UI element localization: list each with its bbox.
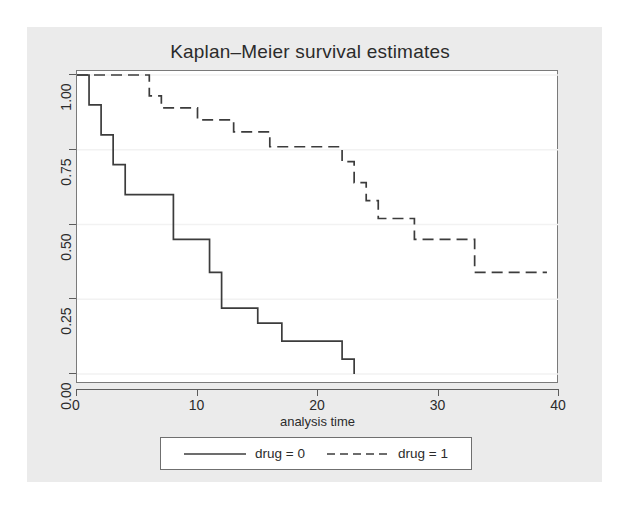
legend-label: drug = 1 [398,446,448,461]
x-tick-mark [76,389,77,396]
legend-key-dashed [327,448,389,460]
x-tick-label: 40 [538,397,578,413]
plot-area [76,70,558,383]
chart-title: Kaplan–Meier survival estimates [60,41,560,63]
series-line-1 [77,75,547,272]
legend-key-solid [184,448,246,460]
y-tick-label: 0.75 [57,149,75,195]
y-axis: 0.000.250.500.751.00 [30,70,76,383]
gridlines-group [77,75,559,374]
legend-entry-0[interactable]: drug = 0 [184,446,305,461]
y-tick-label: 0.50 [57,224,75,270]
x-tick-label: 0 [56,397,96,413]
legend-entry-1[interactable]: drug = 1 [327,446,448,461]
x-tick-mark [197,389,198,396]
legend-label: drug = 0 [255,446,305,461]
x-axis-title: analysis time [76,414,559,429]
x-tick-label: 10 [177,397,217,413]
screenshot-root: Kaplan–Meier survival estimates 0.000.25… [0,0,629,506]
x-tick-mark [317,389,318,396]
plot-svg [77,71,559,384]
x-tick-mark [438,389,439,396]
x-tick-label: 30 [418,397,458,413]
x-tick-mark [558,389,559,396]
x-tick-label: 20 [297,397,337,413]
y-tick-label: 1.00 [57,74,75,120]
y-tick-label: 0.25 [57,298,75,344]
legend: drug = 0drug = 1 [160,437,472,470]
